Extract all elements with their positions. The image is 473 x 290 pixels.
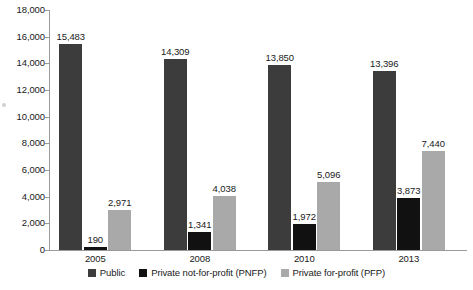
legend-label: Private not-for-profit (PNFP) xyxy=(151,268,266,278)
legend-swatch-icon xyxy=(139,269,147,277)
bar-group: 15,4831902,971 xyxy=(59,10,131,250)
y-axis-tick-label: 4,000 xyxy=(1,192,45,202)
y-axis-tick-label: 6,000 xyxy=(1,165,45,175)
legend-item[interactable]: Private not-for-profit (PNFP) xyxy=(139,268,266,278)
bar: 15,483 xyxy=(59,44,82,250)
x-axis-tick-label: 2008 xyxy=(144,253,256,264)
bar-value-label: 15,483 xyxy=(57,32,85,42)
bar-group: 13,8501,9725,096 xyxy=(268,10,340,250)
bar-value-label: 7,440 xyxy=(422,139,445,149)
bar-value-label: 2,971 xyxy=(108,198,131,208)
legend-item[interactable]: Private for-profit (PFP) xyxy=(281,268,386,278)
bar-value-label: 190 xyxy=(87,235,103,245)
y-axis-tick-mark xyxy=(45,37,49,38)
y-axis-tick-mark xyxy=(45,117,49,118)
bar: 13,850 xyxy=(268,65,291,250)
y-axis-tick-label: 18,000 xyxy=(1,5,45,15)
y-axis-tick-mark xyxy=(45,90,49,91)
y-axis-tick-label: 2,000 xyxy=(1,218,45,228)
legend-swatch-icon xyxy=(281,269,289,277)
y-axis-tick-label: 12,000 xyxy=(1,85,45,95)
x-axis-tick-label: 2010 xyxy=(248,253,360,264)
bar-group: 14,3091,3414,038 xyxy=(164,10,236,250)
bar: 14,309 xyxy=(164,59,187,250)
bar-value-label: 1,972 xyxy=(293,212,316,222)
bar-value-label: 14,309 xyxy=(161,47,189,57)
bar-value-label: 1,341 xyxy=(188,220,211,230)
bar: 5,096 xyxy=(317,182,340,250)
bar-group: 13,3963,8737,440 xyxy=(373,10,445,250)
x-axis-tick-label: 2013 xyxy=(353,253,465,264)
legend-label: Public xyxy=(100,268,125,278)
bar: 1,341 xyxy=(188,232,211,250)
bar: 4,038 xyxy=(213,196,236,250)
y-axis-tick-mark xyxy=(45,197,49,198)
y-axis-tick-mark xyxy=(45,223,49,224)
bar: 2,971 xyxy=(108,210,131,250)
bar-value-label: 13,850 xyxy=(266,53,294,63)
legend-label: Private for-profit (PFP) xyxy=(293,268,386,278)
x-axis-tick-label: 2005 xyxy=(39,253,151,264)
y-axis-tick-mark xyxy=(45,250,49,251)
x-axis-line xyxy=(49,250,467,251)
legend-swatch-icon xyxy=(88,269,96,277)
bar: 3,873 xyxy=(397,198,420,250)
y-axis-tick-mark xyxy=(45,63,49,64)
bar-value-label: 3,873 xyxy=(397,186,420,196)
y-axis-tick-labels: 02,0004,0006,0008,00010,00012,00014,0001… xyxy=(0,0,45,290)
bar: 13,396 xyxy=(373,71,396,250)
y-axis-tick-mark xyxy=(45,143,49,144)
bar: 190 xyxy=(84,247,107,250)
y-axis-tick-mark xyxy=(45,170,49,171)
y-axis-tick-label: 8,000 xyxy=(1,138,45,148)
bar: 7,440 xyxy=(422,151,445,250)
chart-legend: PublicPrivate not-for-profit (PNFP)Priva… xyxy=(0,268,473,278)
y-axis-tick-label: 14,000 xyxy=(1,58,45,68)
legend-item[interactable]: Public xyxy=(88,268,125,278)
bar-chart: 02,0004,0006,0008,00010,00012,00014,0001… xyxy=(0,0,473,290)
bar: 1,972 xyxy=(293,224,316,250)
bar-value-label: 5,096 xyxy=(317,170,340,180)
bar-value-label: 13,396 xyxy=(370,59,398,69)
y-axis-tick-label: 10,000 xyxy=(1,112,45,122)
bar-value-label: 4,038 xyxy=(213,184,236,194)
y-axis-tick-label: 16,000 xyxy=(1,32,45,42)
y-axis-tick-mark xyxy=(45,10,49,11)
